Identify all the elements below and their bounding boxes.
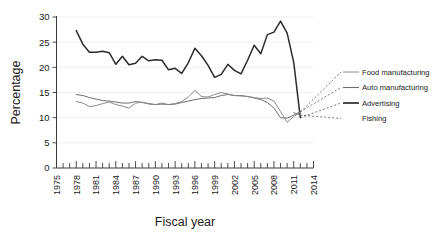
x-tick-label-1981: 1981 xyxy=(91,175,101,195)
x-tick-label-1990: 1990 xyxy=(151,175,161,195)
legend-label-fishing: Fishing xyxy=(362,114,386,123)
y-tick-label-0: 0 xyxy=(44,162,49,173)
x-tick-label-1996: 1996 xyxy=(190,175,200,195)
x-axis-title: Fiscal year xyxy=(155,215,215,229)
chart-legend: Food manufacturingAuto manufacturingAdve… xyxy=(343,68,430,124)
legend-label-food-manufacturing: Food manufacturing xyxy=(362,68,430,77)
x-tick-label-2014: 2014 xyxy=(309,175,319,195)
leader-line-auto-manufacturing xyxy=(300,88,341,112)
x-tick-label-1984: 1984 xyxy=(111,175,121,195)
x-tick-label-2008: 2008 xyxy=(269,175,279,195)
x-tick-label-2002: 2002 xyxy=(230,175,240,195)
y-axis-title: Percentage xyxy=(9,60,23,124)
leader-line-food-manufacturing xyxy=(300,72,341,112)
x-tick-label-2005: 2005 xyxy=(250,175,260,195)
x-tick-label-1987: 1987 xyxy=(131,175,141,195)
legend-label-advertising: Advertising xyxy=(362,99,400,108)
x-tick-label-1975: 1975 xyxy=(52,175,62,195)
y-tick-label-10: 10 xyxy=(39,112,50,123)
y-tick-label-15: 15 xyxy=(39,87,50,98)
y-tick-label-20: 20 xyxy=(39,62,50,73)
y-axis-ticks: 051015202530 xyxy=(39,11,57,173)
y-tick-label-25: 25 xyxy=(39,37,50,48)
x-axis-ticks: 1975197819811984198719901993199619992002… xyxy=(52,161,319,195)
legend-leader-lines xyxy=(300,72,341,119)
y-tick-label-5: 5 xyxy=(44,137,49,148)
x-tick-label-1978: 1978 xyxy=(72,175,82,195)
leader-line-advertising xyxy=(300,103,341,118)
x-tick-label-1993: 1993 xyxy=(171,175,181,195)
data-series xyxy=(76,21,300,122)
chart-container: 1975197819811984198719901993199619992002… xyxy=(0,0,441,234)
x-tick-label-1999: 1999 xyxy=(210,175,220,195)
axis-titles: Fiscal yearPercentage xyxy=(9,60,215,229)
series-line-advertising xyxy=(76,21,300,118)
legend-label-auto-manufacturing: Auto manufacturing xyxy=(362,83,428,92)
y-tick-label-30: 30 xyxy=(39,11,50,22)
line-chart: 1975197819811984198719901993199619992002… xyxy=(0,0,441,234)
axes xyxy=(57,16,314,168)
x-tick-label-2011: 2011 xyxy=(289,175,299,194)
grid-lines xyxy=(57,17,314,143)
